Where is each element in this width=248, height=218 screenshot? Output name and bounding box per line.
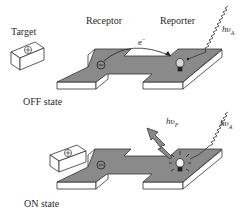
off-state-label: OFF state	[23, 97, 62, 107]
absorption-label-off: hυA	[222, 25, 234, 36]
electron-label: e−	[138, 36, 145, 47]
on-state-label: ON state	[24, 199, 59, 209]
reporter-label: Reporter	[160, 16, 195, 26]
fluorescence-label: hυF	[166, 117, 178, 128]
fluorescence-emission-icon	[147, 128, 172, 159]
absorption-label-on: hυA	[220, 119, 232, 130]
target-label: Target	[11, 27, 36, 37]
diagram-canvas	[0, 0, 248, 218]
receptor-label: Receptor	[86, 16, 122, 26]
